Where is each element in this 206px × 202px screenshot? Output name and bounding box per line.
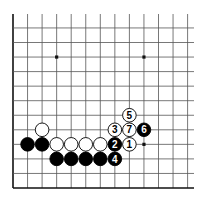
white-stone: [79, 138, 93, 152]
white-stone-7: 7: [123, 123, 137, 137]
white-stone-5: 5: [123, 108, 137, 122]
move-number: 5: [127, 110, 133, 121]
star-point: [142, 143, 145, 146]
move-number: 1: [127, 139, 133, 150]
white-stone: [94, 138, 108, 152]
move-number: 4: [112, 154, 118, 165]
black-stone: [94, 152, 108, 166]
move-number: 6: [141, 124, 147, 135]
black-stone: [64, 152, 78, 166]
black-stone: [50, 152, 64, 166]
white-stone: [35, 123, 49, 137]
black-stone: [35, 138, 49, 152]
star-point: [142, 55, 145, 58]
black-stone-6: 6: [137, 123, 151, 137]
white-stone-3: 3: [108, 123, 122, 137]
white-stone-1: 1: [123, 138, 137, 152]
black-stone-2: 2: [108, 138, 122, 152]
move-number: 7: [127, 124, 133, 135]
black-stone: [79, 152, 93, 166]
black-stone-4: 4: [108, 152, 122, 166]
star-point: [55, 55, 58, 58]
go-board-diagram: 2143765: [0, 0, 206, 202]
move-number: 2: [112, 139, 118, 150]
black-stone: [21, 138, 35, 152]
white-stone: [50, 138, 64, 152]
white-stone: [64, 138, 78, 152]
move-number: 3: [112, 124, 118, 135]
